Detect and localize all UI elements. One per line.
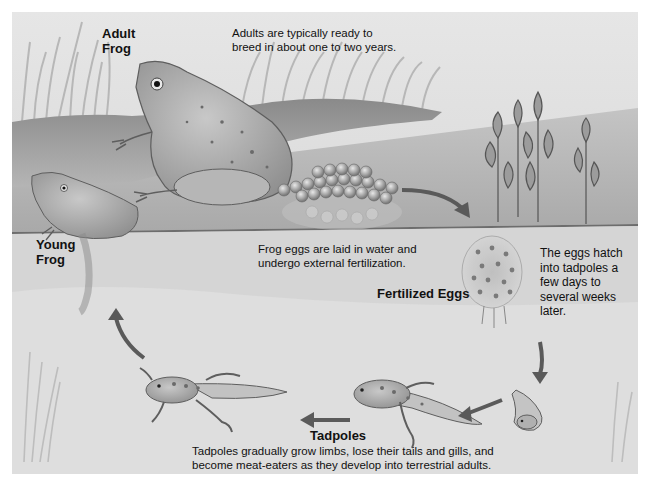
hatch-desc-line3: few days to (540, 275, 623, 290)
eggs-description: Frog eggs are laid in water and undergo … (258, 242, 417, 270)
hatch-desc-line1: The eggs hatch (540, 246, 623, 261)
arrow-fertilized-to-hatchling (540, 342, 542, 374)
tadpoles-description: Tadpoles gradually grow limbs, lose thei… (192, 444, 494, 472)
adult-frog-description: Adults are typically ready to breed in a… (232, 26, 396, 54)
eggs-desc-line2: undergo external fertilization. (258, 256, 417, 270)
hatch-desc-line5: later. (540, 304, 623, 319)
life-cycle-diagram: Adult Frog Adults are typically ready to… (12, 12, 638, 474)
adult-frog-label-line1: Adult (102, 26, 135, 41)
eggs-desc-line1: Frog eggs are laid in water and (258, 242, 417, 256)
young-frog-label-line1: Young (36, 237, 75, 252)
adult-frog-label-line2: Frog (102, 41, 135, 56)
adult-desc-line2: breed in about one to two years. (232, 40, 396, 54)
tadpoles-desc-line2: become meat-eaters as they develop into … (192, 458, 494, 472)
young-frog-label: Young Frog (36, 237, 75, 267)
hatch-desc-line2: into tadpoles a (540, 261, 623, 276)
adult-desc-line1: Adults are typically ready to (232, 26, 396, 40)
hatch-desc-line4: several weeks (540, 290, 623, 305)
adult-frog-label: Adult Frog (102, 26, 135, 56)
hatch-description: The eggs hatch into tadpoles a few days … (540, 246, 623, 319)
young-frog-label-line2: Frog (36, 252, 75, 267)
tadpoles-desc-line1: Tadpoles gradually grow limbs, lose thei… (192, 444, 494, 458)
fertilized-eggs-label: Fertilized Eggs (377, 286, 469, 301)
tadpoles-label: Tadpoles (310, 428, 366, 443)
